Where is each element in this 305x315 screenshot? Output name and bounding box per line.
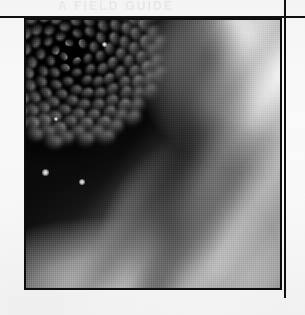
disc-floret xyxy=(127,20,145,29)
disc-floret xyxy=(90,74,106,90)
disc-floret xyxy=(49,20,63,25)
disc-floret xyxy=(108,20,124,35)
disc-floret xyxy=(54,88,68,100)
disc-floret xyxy=(95,30,108,44)
disc-floret xyxy=(122,54,136,70)
disc-floret xyxy=(26,76,37,93)
disc-floret xyxy=(37,85,53,100)
disc-floret xyxy=(26,55,38,69)
disc-floret xyxy=(129,84,149,105)
disc-floret xyxy=(150,54,166,73)
disc-floret xyxy=(70,108,86,122)
disc-floret xyxy=(48,78,62,91)
disc-floret xyxy=(46,109,63,124)
pollen-specular xyxy=(79,179,85,185)
disc-floret xyxy=(71,56,83,68)
disc-floret xyxy=(62,77,73,86)
disc-floret xyxy=(72,27,85,39)
disc-floret xyxy=(95,128,117,148)
disc-floret xyxy=(50,120,68,135)
disc-floret xyxy=(35,63,49,78)
disc-floret xyxy=(26,112,42,131)
disc-floret xyxy=(99,103,119,122)
disc-floret xyxy=(76,132,95,149)
disc-floret xyxy=(30,35,42,49)
disc-floret xyxy=(113,64,128,81)
disc-floret xyxy=(34,112,53,129)
disc-floret xyxy=(79,74,94,88)
vertical-rule xyxy=(284,0,286,298)
disc-floret xyxy=(137,20,155,35)
disc-floret xyxy=(42,22,56,36)
disc-floret xyxy=(119,35,132,51)
disc-floret xyxy=(115,95,135,115)
disc-floret xyxy=(69,84,82,96)
disc-floret xyxy=(146,24,163,43)
disc-floret xyxy=(147,44,160,60)
scanned-page: A FIELD GUIDE xyxy=(0,0,305,315)
disc-floret xyxy=(84,107,102,124)
disc-floret xyxy=(43,133,63,150)
disc-floret xyxy=(44,54,55,67)
disc-floret xyxy=(58,51,69,62)
disc-floret xyxy=(104,81,122,99)
photo-frame xyxy=(24,18,282,290)
disc-floret xyxy=(62,116,77,128)
disc-floret xyxy=(36,48,45,59)
disc-floret xyxy=(26,124,45,143)
disc-floret xyxy=(26,88,43,105)
disc-floret xyxy=(108,31,122,46)
disc-floret xyxy=(33,74,49,89)
pollen-specular xyxy=(54,117,58,121)
disc-floret xyxy=(54,31,66,43)
disc-floret xyxy=(104,20,122,22)
disc-floret xyxy=(65,39,75,47)
disc-floret xyxy=(116,74,133,92)
photo-vignette xyxy=(26,20,280,288)
disc-floret xyxy=(130,26,146,44)
disc-floret xyxy=(82,20,97,28)
disc-floret xyxy=(96,50,106,62)
disc-floret xyxy=(106,56,119,71)
disc-floret xyxy=(37,123,57,140)
disc-floret xyxy=(141,70,159,90)
disc-floret xyxy=(89,41,100,53)
disc-floret xyxy=(70,68,82,79)
disc-floret xyxy=(139,60,155,78)
disc-floret xyxy=(104,42,115,55)
disc-floret xyxy=(119,20,135,38)
disc-floret xyxy=(84,62,98,76)
disc-floret xyxy=(83,25,97,39)
disc-floret xyxy=(26,20,41,26)
disc-floret xyxy=(91,86,108,103)
disc-floret xyxy=(85,123,105,141)
disc-floret xyxy=(51,45,60,56)
disc-floret xyxy=(77,38,89,50)
disc-floret xyxy=(65,95,79,106)
disc-floret xyxy=(60,21,72,31)
disc-floret xyxy=(59,63,70,73)
disc-floret xyxy=(45,95,61,109)
disc-floret xyxy=(76,98,92,112)
disc-floret xyxy=(129,42,141,57)
disc-floret xyxy=(139,34,154,51)
disc-floret xyxy=(47,66,61,79)
disc-floret xyxy=(93,20,110,23)
disc-floret xyxy=(152,66,170,87)
disc-floret xyxy=(96,61,110,76)
disc-floret xyxy=(56,131,74,145)
disc-floret xyxy=(26,25,34,41)
disc-floret xyxy=(79,87,95,101)
disc-floret xyxy=(82,53,93,65)
disc-floret xyxy=(129,73,147,93)
disc-floret xyxy=(126,96,147,118)
photo-luminance-base xyxy=(26,20,280,288)
disc-floret xyxy=(42,34,55,47)
disc-floret xyxy=(37,20,53,23)
disc-floret xyxy=(26,20,29,31)
disc-floret xyxy=(26,111,29,132)
petal-bands-primary xyxy=(26,20,280,288)
disc-floret xyxy=(68,125,85,140)
disc-floret xyxy=(154,35,169,54)
disc-floret xyxy=(96,20,112,35)
